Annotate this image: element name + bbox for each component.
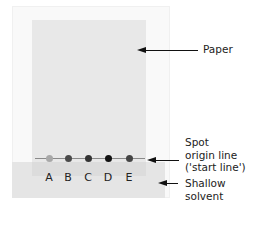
- spot-a: [46, 155, 53, 162]
- solvent-arrow: [165, 183, 178, 184]
- paper-label: Paper: [203, 43, 233, 56]
- spot-label-d: D: [102, 171, 114, 184]
- spot-label-a: A: [43, 171, 55, 184]
- spot-d: [105, 155, 112, 162]
- spot-label-e: E: [123, 171, 135, 184]
- paper-arrow: [144, 50, 198, 51]
- chromatography-paper: [32, 20, 146, 164]
- spot-label-c: C: [82, 171, 94, 184]
- spot-b: [65, 155, 72, 162]
- solvent-label-line1: Shallow: [185, 177, 226, 190]
- origin-arrow: [154, 160, 179, 161]
- spot-e: [126, 155, 133, 162]
- origin-label-line2: origin line: [185, 149, 237, 162]
- origin-label-line3: ('start line'): [185, 161, 246, 174]
- spot-c: [85, 155, 92, 162]
- origin-label-line1: Spot: [185, 136, 209, 149]
- solvent-label-line2: solvent: [185, 190, 223, 203]
- spot-label-b: B: [62, 171, 74, 184]
